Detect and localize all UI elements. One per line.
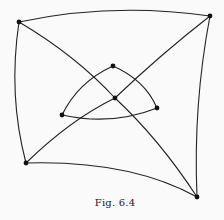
- edge-bottomleft-center: [26, 98, 115, 163]
- edge-bottom: [26, 163, 197, 197]
- edge-center-bottomright: [115, 98, 197, 197]
- node-center: [113, 96, 118, 101]
- edge-innerleft-innerright: [62, 108, 157, 119]
- edge-topleft-center: [19, 22, 115, 98]
- graph-diagram: [0, 0, 224, 220]
- edge-right: [196, 16, 210, 197]
- edge-center-topright: [115, 16, 210, 98]
- edge-innertop-innerleft: [62, 66, 113, 115]
- node-inner-top: [111, 64, 116, 69]
- node-outer-bottom-left: [24, 161, 29, 166]
- node-outer-top-left: [17, 20, 22, 25]
- node-inner-right: [155, 106, 160, 111]
- node-inner-left: [60, 113, 65, 118]
- figure-caption: Fig. 6.4: [0, 197, 224, 208]
- node-outer-top-right: [208, 14, 213, 19]
- edge-left: [15, 22, 26, 163]
- edge-top: [19, 10, 210, 22]
